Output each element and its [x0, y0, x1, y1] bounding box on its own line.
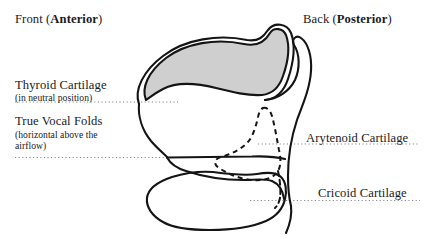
true-vocal-folds-shape [167, 156, 285, 159]
label-arytenoid-cartilage: Arytenoid Cartilage [306, 128, 408, 146]
thyroid-anterior-border [139, 104, 167, 157]
label-true-vocal-folds: True Vocal Folds (horizontal above the a… [15, 111, 125, 151]
label-thyroid-cartilage-title: Thyroid Cartilage [15, 78, 107, 92]
label-true-vocal-folds-subtitle: (horizontal above the airflow) [15, 129, 125, 151]
thyroid-cartilage-shape [144, 29, 288, 100]
orientation-label-front: Front (Anterior) [15, 12, 102, 26]
ventricle-floor-outline [167, 158, 244, 181]
figure-canvas: Front (Anterior) Back (Posterior) Thyroi… [0, 0, 432, 239]
orientation-back-plain: Back ( [303, 12, 337, 26]
label-arytenoid-cartilage-title: Arytenoid Cartilage [306, 131, 408, 145]
label-true-vocal-folds-title: True Vocal Folds [15, 114, 102, 128]
label-cricoid-cartilage-title: Cricoid Cartilage [318, 186, 407, 200]
orientation-front-emphasis: Anterior [50, 12, 98, 26]
arytenoid-vocal-process [275, 171, 280, 208]
orientation-front-plain: Front ( [15, 12, 50, 26]
label-cricoid-cartilage: Cricoid Cartilage [318, 183, 407, 201]
label-thyroid-cartilage: Thyroid Cartilage (in neutral position) [15, 75, 107, 104]
orientation-back-emphasis: Posterior [337, 12, 388, 26]
label-thyroid-cartilage-subtitle: (in neutral position) [15, 93, 107, 104]
posterior-inferior-stem [286, 206, 291, 233]
orientation-front-close: ) [98, 12, 102, 26]
orientation-back-close: ) [387, 12, 391, 26]
cricoid-superior-lip [244, 179, 284, 199]
arytenoid-cartilage-shape [215, 108, 280, 180]
orientation-label-back: Back (Posterior) [303, 12, 392, 26]
